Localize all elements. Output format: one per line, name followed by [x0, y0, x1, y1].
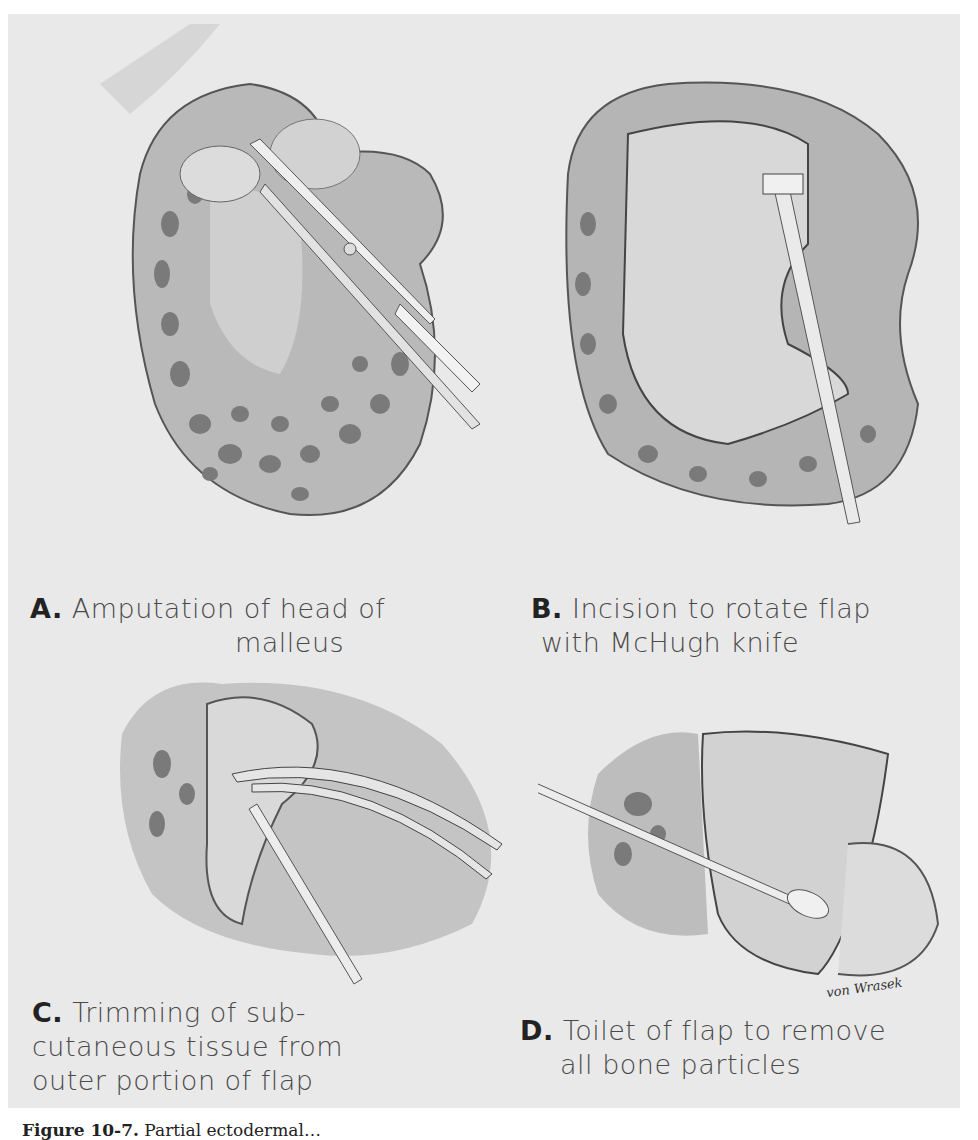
panel-b-label: B. Incision to rotate flap with McHugh k… [531, 592, 871, 660]
illustration-plate: A. Amputation of head of malleus B. Inci… [8, 14, 960, 1108]
panel-c-illustration [112, 664, 532, 994]
flap-incision-drawing [548, 74, 948, 544]
figure-caption: Figure 10-7. Partial ectodermal… [22, 1120, 321, 1140]
panel-b-illustration [548, 74, 948, 544]
panel-d-label: D. Toilet of flap to remove all bone par… [520, 1014, 886, 1082]
figure-number: Figure 10-7. [22, 1120, 139, 1140]
tissue-trimming-drawing [112, 664, 532, 994]
figure-caption-text: Partial ectodermal… [144, 1120, 321, 1140]
panel-c-label: C. Trimming of sub- cutaneous tissue fro… [32, 996, 343, 1098]
malleus-amputation-drawing [100, 24, 540, 584]
flap-toilet-drawing [538, 694, 958, 1004]
panel-a-label: A. Amputation of head of malleus [30, 592, 385, 660]
panel-a-illustration [100, 24, 540, 584]
panel-d-illustration [538, 694, 958, 1004]
